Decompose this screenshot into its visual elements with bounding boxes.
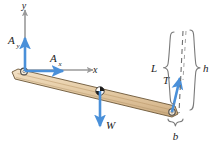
dimension-h: h <box>190 30 209 110</box>
dimension-b-label: b <box>173 130 179 142</box>
b-brace <box>168 119 183 126</box>
dimension-h-label: h <box>203 62 209 74</box>
beam <box>12 69 178 117</box>
h-brace <box>190 30 200 110</box>
force-Ay-subscript: y <box>16 42 21 50</box>
force-Ay-label: A <box>7 34 15 46</box>
force-Ay: A y <box>7 34 25 71</box>
free-body-diagram: y x A y A x W T <box>0 0 220 148</box>
dimension-b: b <box>168 119 183 142</box>
beam-lower-shading <box>16 78 173 115</box>
dimension-L-label: L <box>150 62 157 74</box>
reference-dashed-line <box>179 31 186 113</box>
force-Ax: A x <box>25 52 63 71</box>
dimension-L: L <box>150 32 174 104</box>
force-Ax-subscript: x <box>58 60 63 68</box>
y-axis-label: y <box>21 0 27 11</box>
dashed-vertical-secondary <box>183 31 186 80</box>
dashed-vertical <box>179 31 183 113</box>
x-axis-label: x <box>92 64 98 75</box>
force-Ax-label: A <box>49 52 57 64</box>
force-W-label: W <box>106 119 116 131</box>
L-brace <box>164 32 175 104</box>
com-quadrant-1 <box>100 87 104 91</box>
